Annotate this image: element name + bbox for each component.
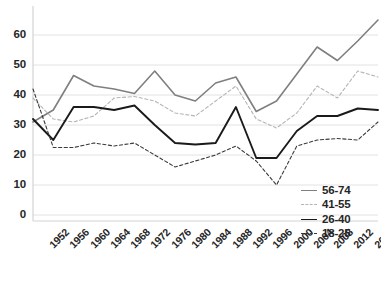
y-tick-label: 50 xyxy=(2,58,26,70)
legend-item-26-40: 26-40 xyxy=(301,212,350,225)
legend-line-swatch-41-55 xyxy=(301,199,317,209)
legend-line-swatch-18-25 xyxy=(301,228,317,238)
y-tick-label: 20 xyxy=(2,148,26,160)
series-lines xyxy=(33,20,378,185)
y-tick-label: 10 xyxy=(2,178,26,190)
legend-label-41-55: 41-55 xyxy=(322,198,350,210)
legend-line-swatch-56-74 xyxy=(301,185,317,195)
legend-item-41-55: 41-55 xyxy=(301,198,350,211)
series-line-26-40 xyxy=(33,106,378,159)
legend-item-56-74: 56-74 xyxy=(301,183,350,196)
y-tick-label: 0 xyxy=(2,208,26,220)
series-line-41-55 xyxy=(33,71,378,128)
y-tick-label: 30 xyxy=(2,118,26,130)
chart-legend: 56-74 41-55 26-40 18-25 xyxy=(301,183,350,240)
y-tick-label: 40 xyxy=(2,88,26,100)
legend-label-26-40: 26-40 xyxy=(322,213,350,225)
legend-label-18-25: 18-25 xyxy=(322,227,350,239)
legend-line-swatch-26-40 xyxy=(301,214,317,224)
legend-label-56-74: 56-74 xyxy=(322,184,350,196)
y-tick-label: 60 xyxy=(2,28,26,40)
line-chart: 6050403020100 19521956196019641968197219… xyxy=(0,0,381,288)
legend-item-18-25: 18-25 xyxy=(301,227,350,240)
series-line-18-25 xyxy=(33,89,378,185)
